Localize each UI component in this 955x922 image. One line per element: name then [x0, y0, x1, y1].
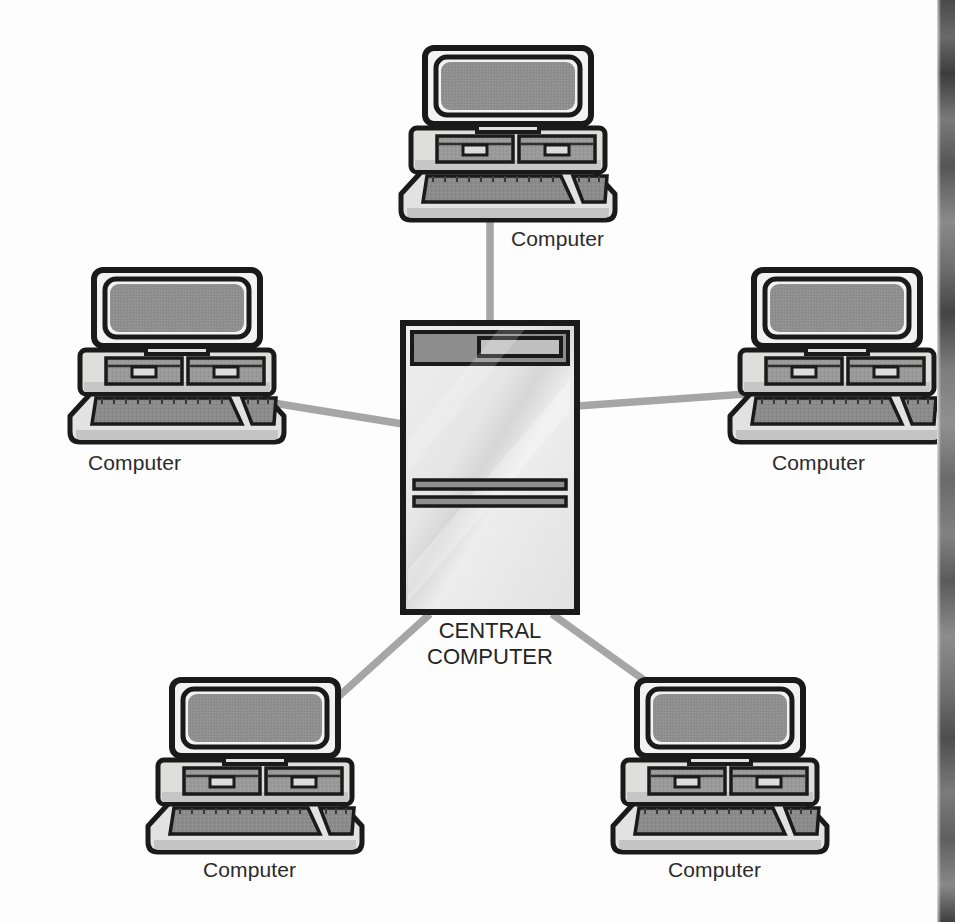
node-label-right: Computer	[772, 450, 865, 475]
node-right[interactable]	[730, 270, 944, 442]
desktop-computer-icon	[70, 270, 284, 442]
node-label-top: Computer	[511, 226, 604, 251]
node-label-bottom-left: Computer	[203, 857, 296, 882]
node-label-bottom-right: Computer	[668, 857, 761, 882]
desktop-computer-icon	[148, 680, 362, 852]
diagram-canvas: Computer Computer Computer Computer Comp…	[0, 0, 955, 922]
mainframe-tower-icon	[403, 323, 577, 612]
scan-edge-artifact	[937, 0, 955, 922]
central-node-label-line1: CENTRAL	[390, 618, 590, 644]
node-central[interactable]	[403, 323, 577, 612]
node-left[interactable]	[70, 270, 284, 442]
desktop-computer-icon	[613, 680, 827, 852]
node-bottom-right[interactable]	[613, 680, 827, 852]
node-label-left: Computer	[88, 450, 181, 475]
central-node-label: CENTRAL COMPUTER	[390, 618, 590, 670]
desktop-computer-icon	[401, 48, 615, 220]
central-node-label-line2: COMPUTER	[390, 644, 590, 670]
node-bottom-left[interactable]	[148, 680, 362, 852]
desktop-computer-icon	[730, 270, 944, 442]
node-top[interactable]	[401, 48, 615, 220]
